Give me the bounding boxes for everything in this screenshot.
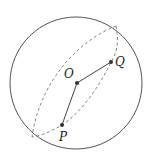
segment-OQ xyxy=(77,62,111,83)
label-P: P xyxy=(58,130,68,144)
point-P xyxy=(60,123,64,127)
label-O: O xyxy=(64,67,74,81)
sphere-diagram: O Q P xyxy=(0,0,148,155)
dashed-arc-left xyxy=(32,26,116,137)
segment-OP xyxy=(62,83,77,125)
point-Q xyxy=(109,60,113,64)
label-Q: Q xyxy=(115,55,125,69)
point-O xyxy=(75,81,79,85)
dashed-arc-right xyxy=(32,26,117,137)
